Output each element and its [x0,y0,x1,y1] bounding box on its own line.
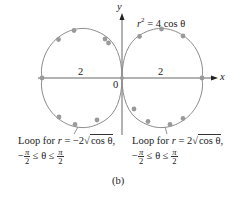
left-leader-line [74,127,78,134]
caption-suffix: , [113,135,116,146]
tick-label-left: 2 [78,66,83,78]
caption-sqrt-arg: cos θ [198,134,221,146]
data-point [72,28,77,33]
fraction-right: π2 [57,148,63,165]
data-point [56,37,61,42]
caption-prefix: Loop for [18,135,58,146]
right-caption-line2: −π2 ≤ θ ≤ π2 [132,148,223,165]
caption-eq: = −2 [62,135,84,146]
data-point [106,41,111,46]
data-point [40,76,45,81]
data-point [146,119,151,124]
figure-caption: (b) [112,175,124,187]
x-axis-arrow-icon [211,76,218,81]
caption-prefix: Loop for [132,135,172,146]
data-point [103,37,108,42]
data-point [181,34,186,39]
data-point [73,122,78,127]
right-caption-line1: Loop for r = 2√cos θ, [132,135,223,147]
right-loop-caption: Loop for r = 2√cos θ, −π2 ≤ θ ≤ π2 [132,135,223,165]
fraction-right: π2 [171,148,177,165]
left-loop-caption: Loop for r = −2√cos θ, −π2 ≤ θ ≤ π2 [18,135,115,165]
equation-rhs: = 4 cos θ [147,18,185,29]
origin-label: 0 [113,79,118,91]
right-loop-points [132,27,205,127]
caption-suffix: , [221,135,224,146]
tick-label-right: 2 [158,66,163,78]
caption-inequality: ≤ θ ≤ [144,150,171,161]
data-point [95,118,100,123]
equation-exponent: 2 [141,16,145,24]
plot-canvas [0,0,240,197]
data-point [132,107,137,112]
left-caption-line2: −π2 ≤ θ ≤ π2 [18,148,115,165]
data-point [181,116,186,121]
left-caption-line1: Loop for r = −2√cos θ, [18,135,115,147]
origin-point [120,76,124,80]
caption-sqrt-arg: cos θ [90,134,113,146]
y-axis-label: y [117,1,122,13]
right-leader-line [165,127,167,134]
equation-label: r2 = 4 cos θ [137,14,185,30]
polar-lemniscate-figure: y x 0 2 2 r2 = 4 cos θ Loop for r = −2√c… [0,0,240,197]
x-axis-label: x [220,71,225,83]
data-point [57,115,62,120]
y-axis-arrow-icon [120,13,125,20]
left-loop-points [40,28,111,127]
caption-inequality: ≤ θ ≤ [30,150,57,161]
data-point [168,122,173,127]
caption-eq: = 2 [176,135,192,146]
data-point [137,34,142,39]
data-point [200,76,205,81]
